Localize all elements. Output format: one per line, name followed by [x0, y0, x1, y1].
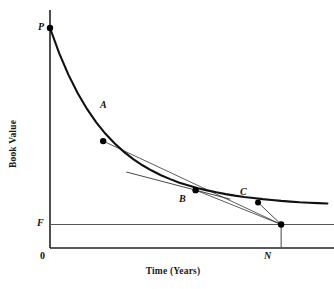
- point-label-p: P: [38, 21, 44, 32]
- book-value-depreciation-chart: Book Value Time (Years) P A B C N F 0: [0, 0, 334, 289]
- marker-point-p: [47, 25, 53, 31]
- point-label-n: N: [264, 250, 271, 261]
- point-label-c: C: [240, 186, 247, 197]
- x-axis-title: Time (Years): [118, 266, 228, 276]
- marker-point-n: [278, 221, 284, 227]
- origin-label: 0: [40, 250, 45, 261]
- chord-a-n-line: [103, 141, 281, 224]
- marker-point-c: [255, 199, 261, 205]
- book-value-curve: [50, 28, 327, 204]
- point-label-a: A: [100, 99, 107, 110]
- y-axis-title-text: Book Value: [8, 120, 18, 168]
- axis-label-f: F: [37, 217, 44, 228]
- marker-point-a: [100, 138, 106, 144]
- y-axis-title: Book Value: [0, 137, 61, 151]
- chord-c-n-line: [258, 202, 281, 224]
- point-label-b: B: [179, 193, 186, 204]
- marker-point-b: [192, 187, 198, 193]
